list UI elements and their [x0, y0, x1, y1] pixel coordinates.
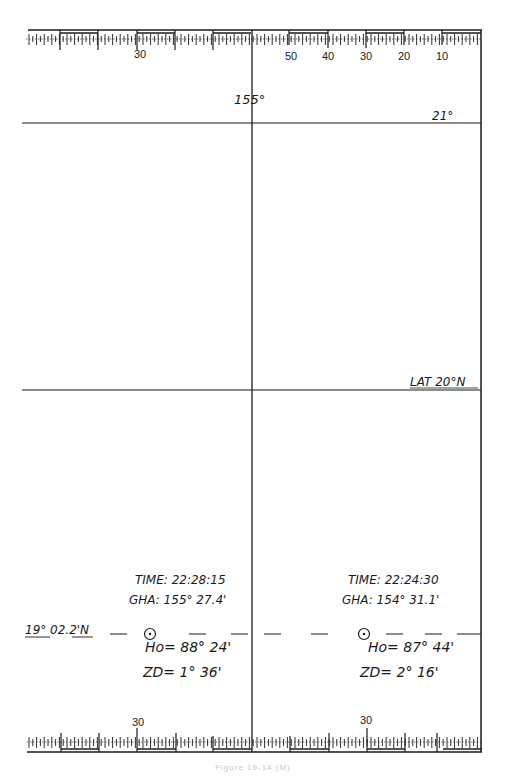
- sight-right: TIME: 22:24:30 GHA: 154° 31.1' Ho= 87° 4…: [342, 573, 454, 680]
- gha-right: GHA: 154° 31.1': [342, 593, 439, 607]
- zd-left: ZD= 1° 36': [142, 664, 222, 680]
- gha-left: GHA: 155° 27.4': [129, 593, 226, 607]
- latitude-label: 19° 02.2'N: [25, 623, 89, 637]
- parallel-top-label: 21°: [432, 109, 453, 123]
- bottom-minute-scale: [27, 728, 482, 752]
- svg-text:30: 30: [360, 714, 372, 726]
- svg-text:40: 40: [322, 50, 334, 62]
- sun-symbol-icon: [359, 629, 370, 640]
- time-right: TIME: 22:24:30: [348, 573, 439, 587]
- top-minute-scale: [26, 30, 482, 50]
- parallel-mid-label: LAT 20°N: [410, 375, 465, 389]
- svg-text:10: 10: [436, 50, 448, 62]
- svg-text:30: 30: [132, 716, 144, 728]
- time-left: TIME: 22:28:15: [135, 573, 226, 587]
- zd-right: ZD= 2° 16': [359, 664, 439, 680]
- svg-text:30: 30: [360, 50, 372, 62]
- meridian-label: 155°: [234, 92, 265, 107]
- ho-left: Ho= 88° 24': [145, 639, 231, 655]
- top-scale-labels: 30 50 40 30 20 10: [134, 48, 448, 62]
- sun-symbol-icon: [145, 629, 156, 640]
- svg-text:50: 50: [285, 50, 297, 62]
- figure-caption: Figure 19-14 (M): [0, 763, 506, 772]
- plotting-sheet: 30 50 40 30 20 10 155° 21° LAT 20°N TIME…: [0, 0, 506, 779]
- ho-right: Ho= 87° 44': [368, 639, 454, 655]
- sight-left: TIME: 22:28:15 GHA: 155° 27.4' Ho= 88° 2…: [129, 573, 231, 680]
- svg-text:20: 20: [398, 50, 410, 62]
- svg-text:30: 30: [134, 48, 146, 60]
